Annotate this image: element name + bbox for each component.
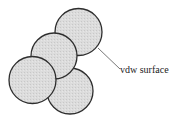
atom-sphere-left [9, 57, 56, 104]
leader-line [98, 48, 120, 69]
vdw-surface-label: vdw surface [120, 64, 169, 76]
vdw-surface-diagram [0, 0, 174, 126]
